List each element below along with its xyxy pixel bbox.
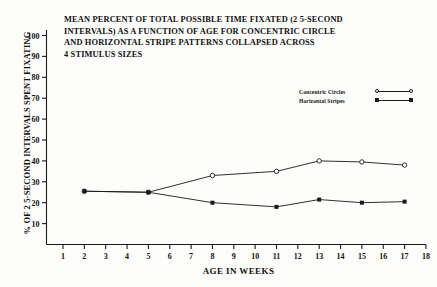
- x-tick-label: 9: [232, 252, 236, 261]
- x-tick-label: 14: [337, 252, 345, 261]
- y-tick-label: 20: [32, 199, 40, 208]
- x-tick-label: 10: [251, 252, 259, 261]
- x-tick-label: 5: [146, 252, 150, 261]
- series-line: [84, 161, 404, 192]
- filled-square-marker-icon: [82, 189, 86, 193]
- open-circle-marker-icon: [317, 159, 321, 163]
- x-tick-label: 17: [401, 252, 409, 261]
- x-tick-label: 11: [273, 252, 281, 261]
- series-horizontal-stripes: [82, 189, 406, 209]
- x-tick-label: 16: [379, 252, 387, 261]
- x-tick-label: 4: [125, 252, 129, 261]
- x-tick-label: 12: [294, 252, 302, 261]
- x-tick-label: 8: [210, 252, 214, 261]
- y-tick-label: 70: [32, 94, 40, 103]
- y-tick-label: 50: [32, 136, 40, 145]
- axes: [47, 30, 427, 245]
- x-axis-label: AGE IN WEEKS: [40, 266, 437, 276]
- open-circle-marker-icon: [210, 173, 214, 177]
- x-tick-label: 6: [168, 252, 172, 261]
- open-circle-marker-icon: [274, 169, 278, 173]
- plot-area: 102030405060708090100 123456789101112131…: [0, 0, 437, 287]
- x-tick-label: 1: [61, 252, 65, 261]
- x-tick-label: 13: [315, 252, 323, 261]
- y-tick-label: 40: [32, 157, 40, 166]
- series-concentric-circles: [82, 159, 407, 195]
- y-axis-ticks: 102030405060708090100: [28, 32, 47, 229]
- filled-square-marker-icon: [146, 190, 150, 194]
- chart-figure: % OF 2 5-SECOND INTERVALS SPENT FIXATING…: [0, 0, 437, 287]
- x-tick-label: 3: [104, 252, 108, 261]
- filled-square-marker-icon: [317, 198, 321, 202]
- x-tick-label: 2: [82, 252, 86, 261]
- open-circle-marker-icon: [360, 160, 364, 164]
- y-tick-label: 100: [28, 32, 40, 41]
- x-tick-label: 7: [189, 252, 193, 261]
- open-circle-marker-icon: [402, 163, 406, 167]
- series-line: [84, 191, 404, 207]
- y-tick-label: 80: [32, 73, 40, 82]
- x-tick-label: 18: [422, 252, 430, 261]
- filled-square-marker-icon: [403, 200, 407, 204]
- filled-square-marker-icon: [275, 205, 279, 209]
- filled-square-marker-icon: [360, 201, 364, 205]
- x-tick-label: 15: [358, 252, 366, 261]
- y-tick-label: 60: [32, 115, 40, 124]
- filled-square-marker-icon: [210, 201, 214, 205]
- y-tick-label: 90: [32, 52, 40, 61]
- y-tick-label: 10: [32, 220, 40, 229]
- data-series-layer: [82, 159, 407, 209]
- x-axis-ticks: 123456789101112131415161718: [61, 245, 430, 261]
- y-tick-label: 30: [32, 178, 40, 187]
